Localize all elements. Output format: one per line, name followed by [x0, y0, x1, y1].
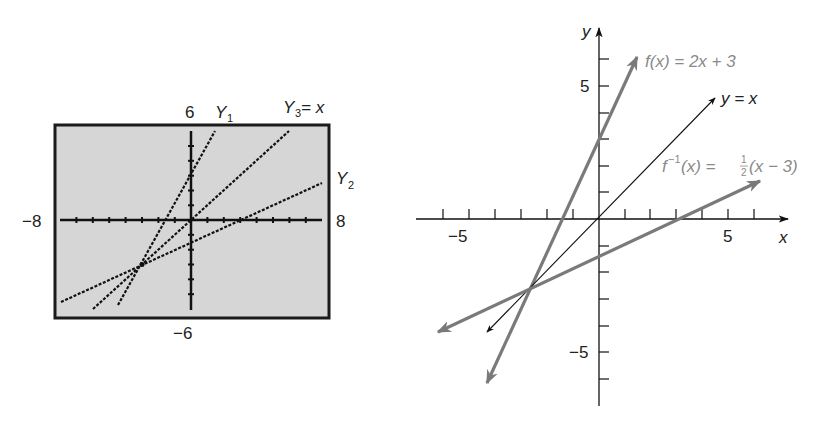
calc-y2-label: Y 2	[336, 169, 354, 191]
calculator-graph: 6 −6 −8 8 Y 1 Y 3 = x Y 2	[22, 98, 354, 343]
calc-ymax-label: 6	[185, 103, 194, 122]
y-equals-x-label: y = x	[720, 89, 758, 108]
line-f	[487, 57, 637, 383]
y-tick-label-5: 5	[580, 77, 589, 96]
x-tick-label-5: 5	[723, 227, 732, 246]
y-axis-label: y	[581, 22, 592, 41]
y-tick-label-neg5: −5	[569, 343, 588, 362]
calc-ymin-label: −6	[173, 324, 192, 343]
calc-intersection	[140, 262, 145, 267]
figure: 6 −6 −8 8 Y 1 Y 3 = x Y 2	[0, 0, 830, 424]
coordinate-graph: y x −5 5 5 −5 f(x) = 2x + 3 y = x f −1 (…	[416, 22, 798, 406]
svg-text:1: 1	[741, 154, 747, 165]
svg-text:−1: −1	[668, 153, 681, 165]
x-tick-label-neg5: −5	[448, 227, 467, 246]
x-axis-label: x	[778, 228, 788, 247]
f-inverse-label: f −1 (x) = 1 2 (x − 3)	[662, 153, 798, 178]
svg-text:1: 1	[227, 112, 233, 124]
calc-y3-label: Y 3 = x	[283, 98, 325, 119]
calc-xmin-label: −8	[22, 212, 41, 231]
svg-text:(x) =: (x) =	[681, 157, 716, 176]
f-label: f(x) = 2x + 3	[645, 52, 736, 71]
calc-y1-label: Y 1	[215, 103, 233, 124]
svg-text:(x − 3): (x − 3)	[749, 157, 798, 176]
svg-text:= x: = x	[301, 98, 325, 117]
calc-xmax-label: 8	[336, 212, 345, 231]
svg-text:2: 2	[741, 167, 747, 178]
svg-text:2: 2	[348, 179, 354, 191]
